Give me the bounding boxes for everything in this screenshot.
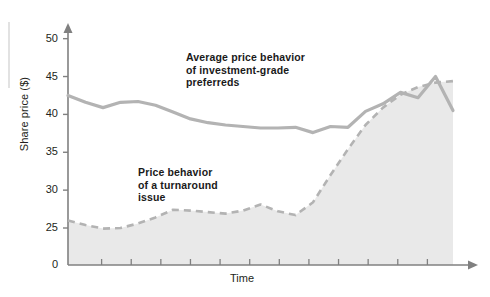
chart-plot-area xyxy=(0,0,490,297)
annotation-line: issue xyxy=(138,191,258,204)
x-axis-label: Time xyxy=(230,272,254,284)
y-axis-label: Share price ($) xyxy=(18,54,30,174)
y-tick-label: 35 xyxy=(32,145,58,157)
share-price-chart: Share price ($) Time 0253035404550 Avera… xyxy=(0,0,490,297)
annotation-line: of investment-grade xyxy=(186,64,326,77)
annotation-turnaround: Price behavior of a turnaround issue xyxy=(138,166,258,204)
annotation-line: of a turnaround xyxy=(138,179,258,192)
y-tick-label: 25 xyxy=(32,221,58,233)
annotation-line: preferreds xyxy=(186,76,326,89)
annotation-line: Price behavior xyxy=(138,166,258,179)
y-tick-label: 40 xyxy=(32,107,58,119)
annotation-investment-grade: Average price behavior of investment-gra… xyxy=(186,51,326,89)
y-tick-label: 45 xyxy=(32,70,58,82)
annotation-line: Average price behavior xyxy=(186,51,326,64)
y-tick-label: 0 xyxy=(32,258,58,270)
y-tick-label: 30 xyxy=(32,183,58,195)
y-tick-label: 50 xyxy=(32,32,58,44)
